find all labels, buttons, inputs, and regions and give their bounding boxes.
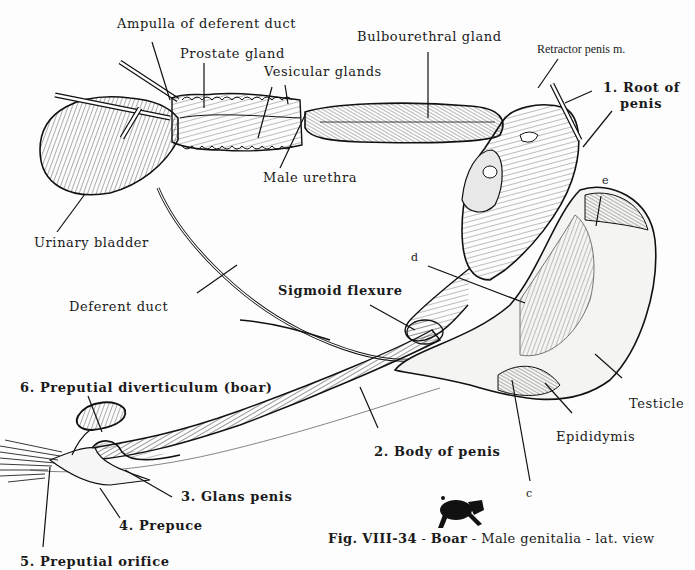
label-bulbourethral-gland: Bulbourethral gland [357,30,502,43]
caption-species: Boar [431,531,468,546]
label-retractor-penis: Retractor penis m. [537,43,625,55]
label-d: d [411,252,419,263]
accessory-glands-shape [172,93,302,150]
label-c: c [526,488,533,499]
caption-sep: - [467,531,481,546]
label-prostate-gland: Prostate gland [180,47,285,60]
label-ampulla: Ampulla of deferent duct [117,17,296,30]
label-root-of-penis-line1: 1. Root of [603,81,680,94]
label-male-urethra: Male urethra [263,171,357,184]
deferent-duct-shape [158,188,410,360]
label-epididymis: Epididymis [556,430,635,443]
label-sigmoid-flexure: Sigmoid flexure [278,284,403,297]
caption-sep: - [417,531,431,546]
anatomy-figure: Ampulla of deferent duct Prostate gland … [0,0,695,570]
label-deferent-duct: Deferent duct [69,300,168,313]
caption-fig-id: Fig. VIII-34 [328,531,417,546]
label-prepuce: 4. Prepuce [119,519,203,532]
boar-silhouette-icon [438,496,484,528]
label-root-of-penis-line2: penis [620,97,662,110]
label-testicle: Testicle [629,397,684,410]
label-urinary-bladder: Urinary bladder [34,236,149,249]
bulbourethral-gland-shape [305,103,503,143]
figure-caption: Fig. VIII-34 - Boar - Male genitalia - l… [328,531,655,546]
label-body-of-penis: 2. Body of penis [374,445,500,458]
label-preputial-orifice: 5. Preputial orifice [20,555,170,568]
caption-subject: Male genitalia - lat. view [481,531,654,546]
urinary-bladder-shape [40,62,178,195]
label-e: e [602,175,609,186]
label-glans-penis: 3. Glans penis [181,490,292,503]
sigmoid-flexure-shape [405,268,470,344]
label-vesicular-glands: Vesicular glands [264,65,382,78]
label-preputial-diverticulum: 6. Preputial diverticulum (boar) [20,381,273,394]
